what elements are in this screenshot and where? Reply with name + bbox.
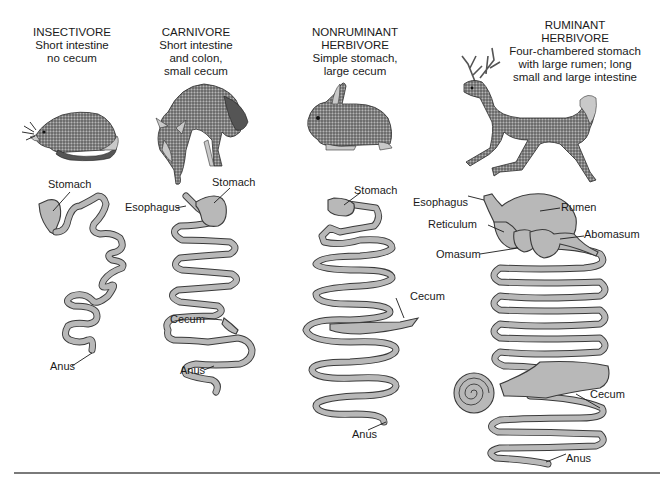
label-ruminant-rumen: Rumen bbox=[561, 201, 596, 213]
digestive-tract-diagram bbox=[0, 0, 660, 490]
deer-illustration bbox=[462, 48, 596, 182]
label-ruminant-cecum: Cecum bbox=[590, 388, 625, 400]
rabbit-illustration bbox=[308, 83, 392, 150]
label-carnivore-anus: Anus bbox=[180, 364, 205, 376]
nonruminant-gut bbox=[306, 193, 418, 430]
label-ruminant-abomasum: Abomasum bbox=[584, 228, 640, 240]
bottom-divider bbox=[14, 472, 660, 474]
label-insectivore-anus: Anus bbox=[50, 360, 75, 372]
carnivore-gut bbox=[167, 188, 252, 392]
label-nonruminant-stomach: Stomach bbox=[354, 184, 397, 196]
label-ruminant-reticulum: Reticulum bbox=[428, 218, 477, 230]
label-carnivore-cecum: Cecum bbox=[170, 313, 205, 325]
label-nonruminant-cecum: Cecum bbox=[410, 290, 445, 302]
label-carnivore-stomach: Stomach bbox=[212, 176, 255, 188]
label-carnivore-esophagus: Esophagus bbox=[125, 201, 180, 213]
label-ruminant-esophagus: Esophagus bbox=[413, 196, 468, 208]
carnivore-cecum bbox=[222, 318, 238, 334]
label-ruminant-omasum: Omasum bbox=[436, 248, 481, 260]
label-nonruminant-anus: Anus bbox=[352, 428, 377, 440]
shrew-illustration bbox=[22, 112, 118, 160]
insectivore-gut bbox=[39, 192, 123, 366]
spiral-colon bbox=[454, 373, 494, 413]
label-ruminant-anus: Anus bbox=[566, 452, 591, 464]
label-insectivore-stomach: Stomach bbox=[48, 178, 91, 190]
coyote-illustration bbox=[156, 84, 248, 184]
